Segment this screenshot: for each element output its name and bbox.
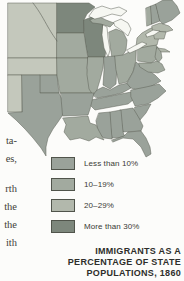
legend-label: 10–19% bbox=[84, 180, 114, 189]
legend-swatch-more30 bbox=[51, 220, 75, 233]
legend-swatch-less10 bbox=[51, 157, 75, 170]
scanned-page: ta-es,rththetheith bbox=[0, 0, 184, 281]
text-fragment: the bbox=[4, 219, 17, 230]
legend-item: 10–19% bbox=[51, 178, 114, 191]
region-kansas-territory bbox=[8, 58, 57, 75]
text-fragment: ith bbox=[6, 237, 17, 248]
region-iowa bbox=[57, 33, 88, 58]
region-arkansas bbox=[61, 93, 94, 116]
legend-item: 20–29% bbox=[51, 199, 114, 212]
legend-label: 20–29% bbox=[84, 201, 114, 210]
legend-item: More than 30% bbox=[51, 220, 140, 233]
map-title-line: POPULATIONS, 1860 bbox=[51, 268, 181, 279]
text-fragment: rth bbox=[5, 183, 17, 194]
legend-label: More than 30% bbox=[84, 222, 140, 231]
region-michigan-lower bbox=[109, 29, 127, 58]
map-title-line: PERCENTAGE OF STATE bbox=[51, 257, 181, 268]
region-indiana bbox=[103, 56, 117, 89]
region-new-mexico-territory bbox=[8, 75, 22, 112]
legend-swatch-c20_29 bbox=[51, 199, 75, 212]
region-indian-territory bbox=[40, 75, 59, 93]
map-title: IMMIGRANTS AS APERCENTAGE OF STATEPOPULA… bbox=[51, 246, 181, 279]
region-dakota-nebraska-territory bbox=[8, 3, 57, 58]
legend-item: Less than 10% bbox=[51, 157, 138, 170]
legend-swatch-c10_19 bbox=[51, 178, 75, 191]
map-title-line: IMMIGRANTS AS A bbox=[51, 246, 181, 257]
us-immigration-map bbox=[0, 0, 184, 162]
legend-label: Less than 10% bbox=[84, 159, 138, 168]
lake-superior bbox=[89, 6, 127, 19]
text-fragment: the bbox=[4, 201, 17, 212]
